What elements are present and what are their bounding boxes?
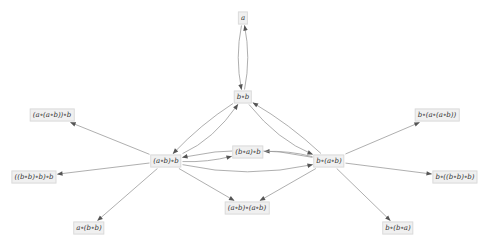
- graph-edge: [238, 26, 241, 90]
- graph-edge: [183, 105, 238, 154]
- graph-edge: [71, 123, 150, 155]
- graph-edge: [337, 169, 391, 221]
- graph-node[interactable]: (a∘b)∘(a∘b): [225, 202, 270, 215]
- graph-node[interactable]: b∘((b∘b)∘b): [432, 171, 477, 184]
- graph-node[interactable]: (b∘a)∘b: [232, 146, 263, 159]
- graph-node[interactable]: b∘(b∘a): [382, 222, 413, 235]
- graph-node[interactable]: (a∘b)∘b: [150, 155, 181, 168]
- graph-node[interactable]: a∘(b∘b): [73, 222, 104, 235]
- graph-node[interactable]: b∘(a∘(a∘b)): [415, 109, 460, 122]
- graph-edge: [173, 103, 233, 153]
- graph-edge: [183, 156, 232, 161]
- graph-node[interactable]: ((b∘b)∘b)∘b: [11, 171, 56, 184]
- graph-edge: [245, 26, 248, 90]
- graph-edge: [98, 169, 158, 221]
- graph-edge: [183, 165, 313, 172]
- graph-node[interactable]: b∘(a∘b): [313, 155, 344, 168]
- graph-edge: [58, 163, 150, 174]
- graph-node[interactable]: (a∘(a∘b))∘b: [30, 109, 75, 122]
- graph-node[interactable]: b∘b: [234, 91, 252, 104]
- graph-edge: [260, 169, 316, 201]
- graph-edge: [346, 163, 432, 174]
- graph-edge: [179, 169, 234, 201]
- graph-edge: [346, 123, 420, 154]
- graph-node[interactable]: a: [238, 12, 248, 25]
